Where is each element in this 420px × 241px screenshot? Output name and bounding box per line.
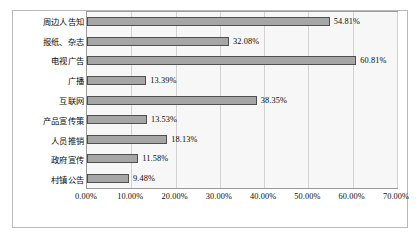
x-axis-tick-labels: 0.00% 10.00% 20.00% 30.00% 40.00% 50.00%… <box>86 192 398 208</box>
category-label: 产品宣传策 <box>13 110 86 130</box>
bar <box>87 96 257 105</box>
bar-value-label: 32.08% <box>233 37 259 46</box>
plot-area: 54.81% 32.08% 60.81% 13.39% 38.35% <box>86 11 398 189</box>
bar-value-label: 13.53% <box>151 115 177 124</box>
bar <box>87 37 229 46</box>
bar-row: 38.35% <box>87 90 397 110</box>
bar <box>87 135 167 144</box>
x-tick-label: 30.00% <box>206 192 232 201</box>
category-label: 广播 <box>13 70 86 90</box>
bar-chart: 周边人告知 报纸、杂志 电视广告 广播 互联网 产品宣传策 人员推销 政府宣传 … <box>0 0 420 241</box>
x-tick-label: 0.00% <box>75 192 97 201</box>
bar-row: 11.58% <box>87 149 397 169</box>
bar-row: 18.13% <box>87 129 397 149</box>
bar-row: 54.81% <box>87 12 397 32</box>
bar <box>87 76 146 85</box>
x-tick-label: 10.00% <box>117 192 143 201</box>
chart-plot-container: 周边人告知 报纸、杂志 电视广告 广播 互联网 产品宣传策 人员推销 政府宣传 … <box>13 11 407 189</box>
bar-value-label: 54.81% <box>334 17 360 26</box>
bar-row: 60.81% <box>87 51 397 71</box>
category-label: 互联网 <box>13 90 86 110</box>
bar-row: 9.48% <box>87 169 397 189</box>
bar-value-label: 13.39% <box>150 76 176 85</box>
x-tick-label: 70.00% <box>383 192 409 201</box>
category-axis-labels: 周边人告知 报纸、杂志 电视广告 广播 互联网 产品宣传策 人员推销 政府宣传 … <box>13 11 86 189</box>
bar-row: 13.39% <box>87 71 397 91</box>
category-label: 报纸、杂志 <box>13 31 86 51</box>
bar-value-label: 11.58% <box>142 154 168 163</box>
bar <box>87 115 147 124</box>
bar-row: 32.08% <box>87 32 397 52</box>
x-tick-label: 50.00% <box>294 192 320 201</box>
category-label: 人员推销 <box>13 130 86 150</box>
bar-value-label: 9.48% <box>133 174 155 183</box>
bar-value-label: 18.13% <box>171 135 197 144</box>
bar-value-label: 38.35% <box>261 96 287 105</box>
category-label: 周边人告知 <box>13 11 86 31</box>
bar <box>87 56 356 65</box>
x-tick-label: 40.00% <box>250 192 276 201</box>
bar-row: 13.53% <box>87 110 397 130</box>
x-tick-label: 60.00% <box>339 192 365 201</box>
bar-value-label: 60.81% <box>360 56 386 65</box>
bar <box>87 174 129 183</box>
category-label: 村镇公告 <box>13 169 86 189</box>
bar-series: 54.81% 32.08% 60.81% 13.39% 38.35% <box>87 12 397 188</box>
category-label: 电视广告 <box>13 51 86 71</box>
category-label: 政府宣传 <box>13 149 86 169</box>
gridline <box>397 12 398 188</box>
x-tick-label: 20.00% <box>161 192 187 201</box>
bar <box>87 17 330 26</box>
bar <box>87 154 138 163</box>
